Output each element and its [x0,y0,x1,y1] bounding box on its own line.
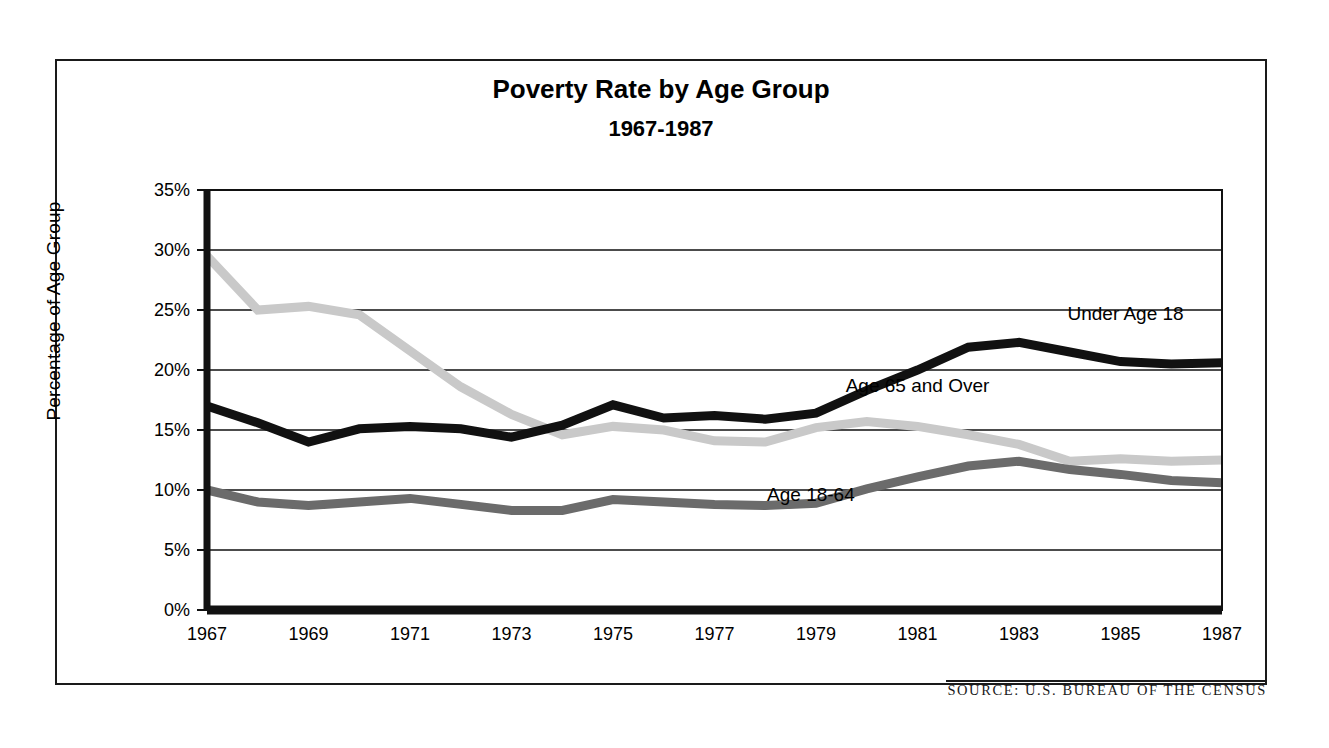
chart-subtitle: 1967-1987 [55,112,1267,146]
chart-title-block: Poverty Rate by Age Group 1967-1987 [55,72,1267,146]
figure-outer-frame [55,59,1267,685]
y-axis-title: Percentage of Age Group [43,161,65,461]
poverty-rate-chart-figure: Poverty Rate by Age Group 1967-1987 Perc… [0,0,1329,748]
source-note: SOURCE: U.S. BUREAU OF THE CENSUS [0,682,1267,699]
page-title: Poverty Rate by Age Group [55,72,1267,106]
